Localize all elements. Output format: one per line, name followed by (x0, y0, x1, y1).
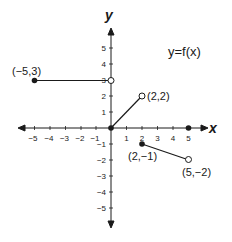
closed-point-icon (108, 125, 114, 131)
function-label: y=f(x) (168, 44, 201, 59)
x-tick-label: −3 (60, 134, 70, 143)
isolated-closed-point-icon (186, 125, 192, 131)
y-tick-label: 5 (102, 44, 107, 53)
closed-point-icon (139, 141, 145, 147)
y-axis-up-arrow-icon (108, 28, 114, 35)
x-tick-label: 4 (171, 134, 176, 143)
chart-container: −5 −4 −3 −2 −1 1 2 3 4 5 5 4 3 (0, 0, 232, 242)
point-label: (5,−2) (182, 166, 211, 178)
open-point-icon (108, 78, 114, 84)
point-label: (−5,3) (12, 65, 41, 77)
y-tick-label: −1 (97, 140, 107, 149)
y-tick-label: 4 (102, 60, 107, 69)
y-tick-label: 1 (102, 108, 107, 117)
open-point-icon (139, 93, 145, 99)
x-tick-label: −4 (44, 134, 54, 143)
x-tick-label: 3 (155, 134, 160, 143)
point-label: (2,−1) (128, 150, 157, 162)
x-axis-right-arrow-icon (201, 125, 208, 131)
open-point-icon (186, 157, 192, 163)
x-tick-label: −5 (28, 134, 38, 143)
x-axis-label: x (208, 120, 218, 136)
y-tick-label: 2 (102, 92, 107, 101)
segment-2 (108, 93, 145, 131)
x-axis-left-arrow-icon (18, 125, 25, 131)
point-label: (2,2) (147, 90, 170, 102)
x-tick-labels: −5 −4 −3 −2 −1 1 2 3 4 5 (28, 134, 191, 143)
closed-point-icon (32, 78, 38, 84)
y-axis-down-arrow-icon (108, 221, 114, 228)
x-tick-label: 5 (186, 134, 191, 143)
y-tick-label: −2 (97, 156, 107, 165)
x-tick-label: −2 (75, 134, 85, 143)
y-axis-label: y (104, 7, 114, 23)
y-tick-label: −5 (97, 204, 107, 213)
y-tick-label: −4 (97, 188, 107, 197)
y-tick-label: −3 (97, 172, 107, 181)
x-tick-label: 1 (124, 134, 129, 143)
coordinate-plane: −5 −4 −3 −2 −1 1 2 3 4 5 5 4 3 (0, 0, 232, 242)
